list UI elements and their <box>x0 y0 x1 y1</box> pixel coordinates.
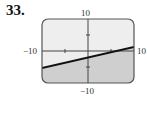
graph-screen <box>0 0 147 116</box>
